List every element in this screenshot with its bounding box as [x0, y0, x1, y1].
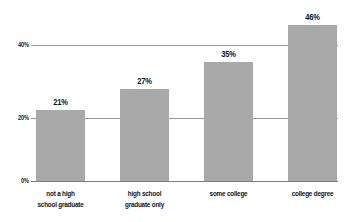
category-label-line-1: college degree [278, 189, 347, 200]
category-label-line-1: not a high [26, 189, 95, 200]
y-tick-label-0: 0% [13, 177, 29, 185]
bar-chart: 40% 20% 0% 21% 27% 35% 46% not a high sc… [0, 0, 355, 222]
category-label-college-degree: college degree [272, 189, 353, 200]
bar-some-college [204, 62, 253, 181]
value-label-not-a-high-school-graduate: 21% [40, 97, 81, 107]
x-axis-baseline [31, 181, 338, 182]
bar-not-a-high-school-graduate [36, 110, 85, 181]
bar-high-school-graduate-only [120, 89, 169, 181]
category-label-line-1: some college [194, 189, 263, 200]
value-label-some-college: 35% [208, 49, 249, 59]
value-label-high-school-graduate-only: 27% [124, 76, 165, 86]
category-label-high-school-graduate-only: high school graduate only [104, 189, 185, 210]
category-label-line-1: high school [110, 189, 179, 200]
bar-college-degree [288, 25, 337, 181]
category-label-some-college: some college [188, 189, 269, 200]
category-label-line-2: school graduate [26, 200, 95, 211]
category-label-line-2: graduate only [110, 200, 179, 211]
y-tick-label-20: 20% [13, 114, 29, 122]
y-tick-label-40: 40% [13, 41, 29, 49]
value-label-college-degree: 46% [292, 12, 333, 22]
category-label-not-a-high-school-graduate: not a high school graduate [20, 189, 101, 210]
plot-area: 40% 20% 0% 21% 27% 35% 46% not a high sc… [0, 0, 355, 222]
